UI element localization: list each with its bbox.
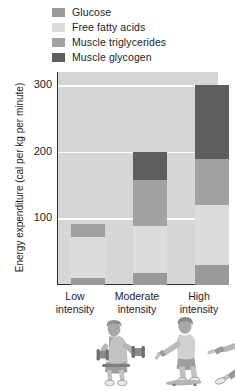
bar-segment-muscle-glycogen-moderate-intensity <box>133 152 167 180</box>
bar-high-intensity <box>195 85 229 285</box>
x-tick-label-moderate: Moderate intensity <box>108 290 166 315</box>
x-tick-low-line2: intensity <box>56 303 95 315</box>
bar-segment-glucose-high-intensity <box>195 265 229 285</box>
bar-low-intensity <box>71 224 105 285</box>
x-tick-label-low: Low intensity <box>46 290 104 315</box>
y-tick-label-100: 100 <box>8 211 52 223</box>
legend-swatch-glucose <box>52 8 65 17</box>
stacked-bar-chart-figure: Glucose Free fatty acids Muscle triglyce… <box>0 0 235 391</box>
legend-swatch-muscle-triglycerides <box>52 38 65 47</box>
y-tick-label-200: 200 <box>8 145 52 157</box>
x-tick-low-line1: Low <box>65 290 84 302</box>
x-tick-moderate-line1: Moderate <box>115 290 159 302</box>
legend-label-muscle-glycogen: Muscle glycogen <box>72 52 152 63</box>
legend-label-free-fatty-acids: Free fatty acids <box>72 22 145 33</box>
legend-item-glucose: Glucose <box>52 5 232 20</box>
y-axis-tick-labels: 300 200 100 <box>4 72 52 285</box>
legend-item-muscle-glycogen: Muscle glycogen <box>52 50 232 65</box>
legend-label-glucose: Glucose <box>72 7 111 18</box>
illustration-row <box>50 316 235 388</box>
chart-legend: Glucose Free fatty acids Muscle triglyce… <box>52 5 232 65</box>
legend-swatch-free-fatty-acids <box>52 23 65 32</box>
bar-segment-glucose-low-intensity <box>71 278 105 285</box>
legend-label-muscle-triglycerides: Muscle triglycerides <box>72 37 166 48</box>
x-tick-high-line1: High <box>188 290 210 302</box>
bar-moderate-intensity <box>133 152 167 285</box>
legend-item-muscle-triglycerides: Muscle triglycerides <box>52 35 232 50</box>
x-axis-tick-labels: Low intensity Moderate intensity High in… <box>57 290 218 318</box>
x-tick-high-line2: intensity <box>180 303 219 315</box>
bar-segment-muscle-triglycerides-moderate-intensity <box>133 180 167 227</box>
x-tick-moderate-line2: intensity <box>118 303 157 315</box>
x-tick-label-high: High intensity <box>170 290 228 315</box>
bar-segment-free-fatty-acids-low-intensity <box>71 237 105 278</box>
bar-group <box>57 72 218 285</box>
skateboarder-icon <box>149 316 211 386</box>
bar-segment-muscle-triglycerides-high-intensity <box>195 159 229 206</box>
y-tick-label-300: 300 <box>8 78 52 90</box>
seated-dumbbell-exerciser-icon <box>92 320 148 386</box>
bar-segment-free-fatty-acids-high-intensity <box>195 205 229 265</box>
bar-segment-glucose-moderate-intensity <box>133 273 167 285</box>
bar-segment-muscle-triglycerides-low-intensity <box>71 224 105 237</box>
legend-item-free-fatty-acids: Free fatty acids <box>52 20 232 35</box>
sprinting-runner-icon <box>204 318 235 386</box>
bar-segment-muscle-glycogen-high-intensity <box>195 85 229 158</box>
legend-swatch-muscle-glycogen <box>52 53 65 62</box>
bar-segment-free-fatty-acids-moderate-intensity <box>133 226 167 273</box>
